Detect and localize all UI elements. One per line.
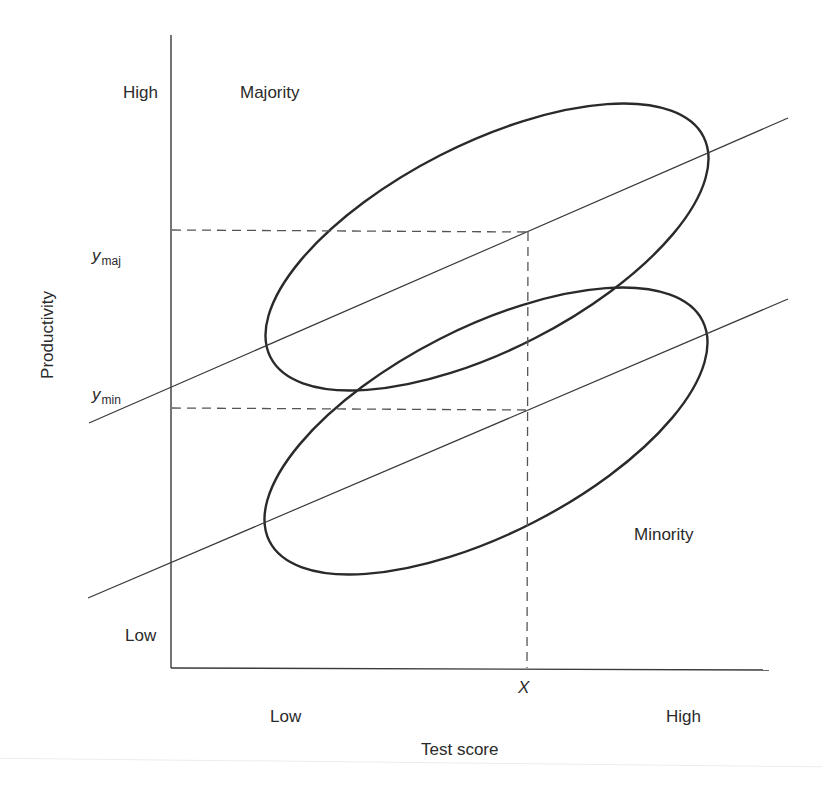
minority-label: Minority (634, 526, 694, 543)
x-axis-high-label: High (666, 708, 701, 725)
x-marker-label: X (518, 679, 529, 696)
x-axis-title: Test score (421, 741, 498, 758)
x-axis (171, 668, 769, 670)
y-min-dashed-line (172, 408, 528, 410)
y-axis-title: Productivity (38, 291, 58, 379)
y-maj-label: ymaj (92, 247, 121, 264)
majority-ellipse (224, 45, 751, 449)
y-min-label: ymin (92, 386, 121, 403)
majority-label: Majority (240, 84, 300, 101)
y-axis-low-label: Low (125, 627, 156, 644)
x-axis-low-label: Low (270, 708, 301, 725)
y-maj-subscript: maj (102, 254, 121, 268)
diagram-canvas (0, 0, 822, 796)
y-maj-symbol: y (92, 246, 101, 265)
y-axis-high-label: High (123, 84, 158, 101)
x-dashed-line (527, 232, 528, 668)
clipped-caption (0, 784, 822, 796)
y-maj-dashed-line (172, 230, 528, 232)
minority-ellipse (223, 229, 750, 633)
y-min-symbol: y (92, 385, 101, 404)
minority-regression-line (88, 299, 788, 598)
y-min-subscript: min (102, 393, 121, 407)
